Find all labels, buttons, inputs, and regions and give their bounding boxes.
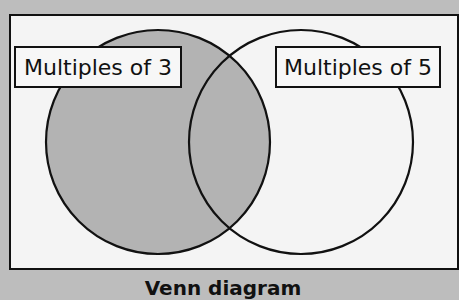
diagram-caption: Venn diagram: [0, 276, 446, 300]
set-b-label: Multiples of 5: [275, 46, 441, 88]
set-a-label: Multiples of 3: [14, 46, 182, 88]
